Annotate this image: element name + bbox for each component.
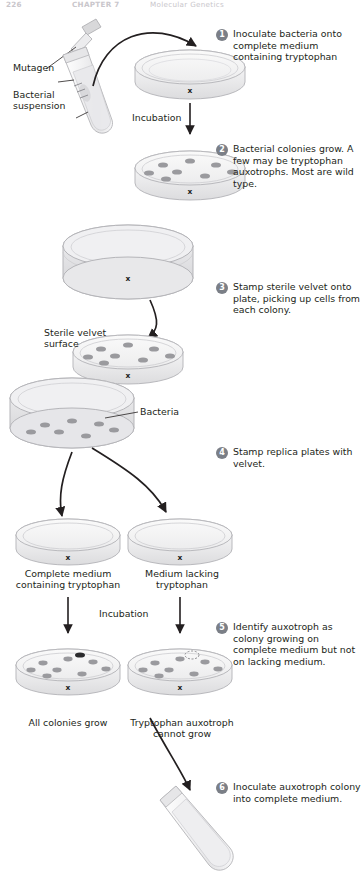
label-complete-medium-line1: Complete medium xyxy=(4,568,132,579)
step-2-text: Bacterial colonies grow. A few may be tr… xyxy=(233,143,362,189)
label-complete-medium: Complete medium containing tryptophan xyxy=(4,568,132,591)
svg-text:x: x xyxy=(188,86,193,95)
velvet-stamp-upper: x xyxy=(63,225,193,299)
svg-text:x: x xyxy=(66,553,71,562)
step-4: 4 Stamp replica plates with velvet. xyxy=(216,446,362,469)
step-5-bullet: 5 xyxy=(216,622,228,634)
step-3: 3 Stamp sterile velvet onto plate, picki… xyxy=(216,281,362,316)
svg-text:x: x xyxy=(66,683,71,692)
step-2: 2 Bacterial colonies grow. A few may be … xyxy=(216,143,362,189)
auxotroph-colony-highlight xyxy=(75,652,85,657)
label-sterile-velvet-surface: Sterile velvet surface xyxy=(44,327,116,350)
figure-canvas: 226 CHAPTER 7 Molecular Genetics xyxy=(0,0,364,884)
step-1-bullet: 1 xyxy=(216,29,228,41)
step-1-text: Inoculate bacteria onto complete medium … xyxy=(233,28,362,63)
petri-dish-5-left: x xyxy=(16,649,120,695)
label-sterile-velvet-line1: Sterile velvet xyxy=(44,327,116,338)
petri-dish-4-right: x xyxy=(128,519,232,565)
svg-text:x: x xyxy=(126,274,131,283)
step-5: 5 Identify auxotroph as colony growing o… xyxy=(216,621,362,667)
step-4-bullet: 4 xyxy=(216,447,228,459)
step-1: 1 Inoculate bacteria onto complete mediu… xyxy=(216,28,362,63)
figure-artwork: x x xyxy=(0,0,364,884)
petri-dish-4-left: x xyxy=(16,519,120,565)
step-5-text: Identify auxotroph as colony growing on … xyxy=(233,621,362,667)
label-auxotroph-cannot-grow-line2: cannot grow xyxy=(124,728,240,739)
label-lacking-medium-line2: tryptophan xyxy=(134,579,230,590)
step-3-text: Stamp sterile velvet onto plate, picking… xyxy=(233,281,362,316)
step-6: 6 Inoculate auxotroph colony into comple… xyxy=(216,781,362,804)
label-auxotroph-cannot-grow: Tryptophan auxotroph cannot grow xyxy=(124,717,240,740)
arrow-replica-right xyxy=(92,448,166,512)
label-all-colonies-grow: All colonies grow xyxy=(10,717,126,728)
label-lacking-medium-line1: Medium lacking xyxy=(134,568,230,579)
svg-text:x: x xyxy=(178,683,183,692)
label-bacteria: Bacteria xyxy=(140,406,179,417)
arrow-stamp-down xyxy=(148,300,157,338)
step-2-bullet: 2 xyxy=(216,144,228,156)
label-mutagen: Mutagen xyxy=(13,62,54,73)
label-sterile-velvet-line2: surface xyxy=(44,338,116,349)
label-complete-medium-line2: containing tryptophan xyxy=(4,579,132,590)
arrow-replica-left xyxy=(60,452,72,516)
label-bacterial-suspension-line1: Bacterial xyxy=(13,89,75,100)
svg-text:x: x xyxy=(178,553,183,562)
label-auxotroph-cannot-grow-line1: Tryptophan auxotroph xyxy=(124,717,240,728)
step-6-text: Inoculate auxotroph colony into complete… xyxy=(233,781,362,804)
label-incubation-2: Incubation xyxy=(99,608,148,619)
label-incubation-1: Incubation xyxy=(132,112,181,123)
label-bacterial-suspension-line2: suspension xyxy=(13,100,75,111)
velvet-stamp-lower xyxy=(10,378,138,448)
label-bacterial-suspension: Bacterial suspension xyxy=(13,89,75,112)
svg-text:x: x xyxy=(188,187,193,196)
label-lacking-medium: Medium lacking tryptophan xyxy=(134,568,230,591)
svg-text:x: x xyxy=(126,371,131,380)
step-6-bullet: 6 xyxy=(216,782,228,794)
step-3-bullet: 3 xyxy=(216,282,228,294)
step-4-text: Stamp replica plates with velvet. xyxy=(233,446,362,469)
